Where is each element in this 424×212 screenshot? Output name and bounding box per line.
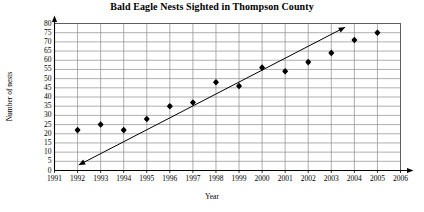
trend-line — [79, 27, 345, 165]
y-tick-label: 20 — [30, 130, 52, 138]
y-tick-label: 55 — [30, 65, 52, 73]
y-tick-label: 25 — [30, 121, 52, 129]
y-tick-label: 45 — [30, 84, 52, 92]
y-tick-label: 80 — [30, 20, 52, 28]
data-point — [305, 59, 311, 66]
axis-lines — [52, 16, 414, 174]
data-point — [328, 50, 334, 57]
y-tick-label: 75 — [30, 29, 52, 37]
y-tick-label: 35 — [30, 102, 52, 110]
y-tick-label: 0 — [30, 167, 52, 175]
data-point — [144, 116, 150, 123]
y-tick-label: 60 — [30, 56, 52, 64]
data-point — [167, 103, 173, 110]
x-tick-label: 2006 — [381, 175, 421, 183]
y-tick-label: 70 — [30, 38, 52, 46]
data-point — [259, 64, 265, 71]
data-point — [351, 37, 357, 44]
data-point — [121, 127, 127, 134]
y-tick-label: 50 — [30, 75, 52, 83]
data-point — [282, 68, 288, 75]
chart-figure: Bald Eagle Nests Sighted in Thompson Cou… — [0, 0, 424, 212]
data-point — [213, 79, 219, 86]
data-point — [98, 121, 104, 128]
y-tick-label: 5 — [30, 157, 52, 165]
y-tick-label: 10 — [30, 148, 52, 156]
y-tick-label: 40 — [30, 93, 52, 101]
y-tick-label: 65 — [30, 47, 52, 55]
y-tick-label: 30 — [30, 111, 52, 119]
data-points — [75, 29, 381, 133]
grid-lines — [55, 24, 401, 171]
data-point — [75, 127, 81, 134]
data-point — [374, 29, 380, 36]
y-tick-label: 15 — [30, 139, 52, 147]
